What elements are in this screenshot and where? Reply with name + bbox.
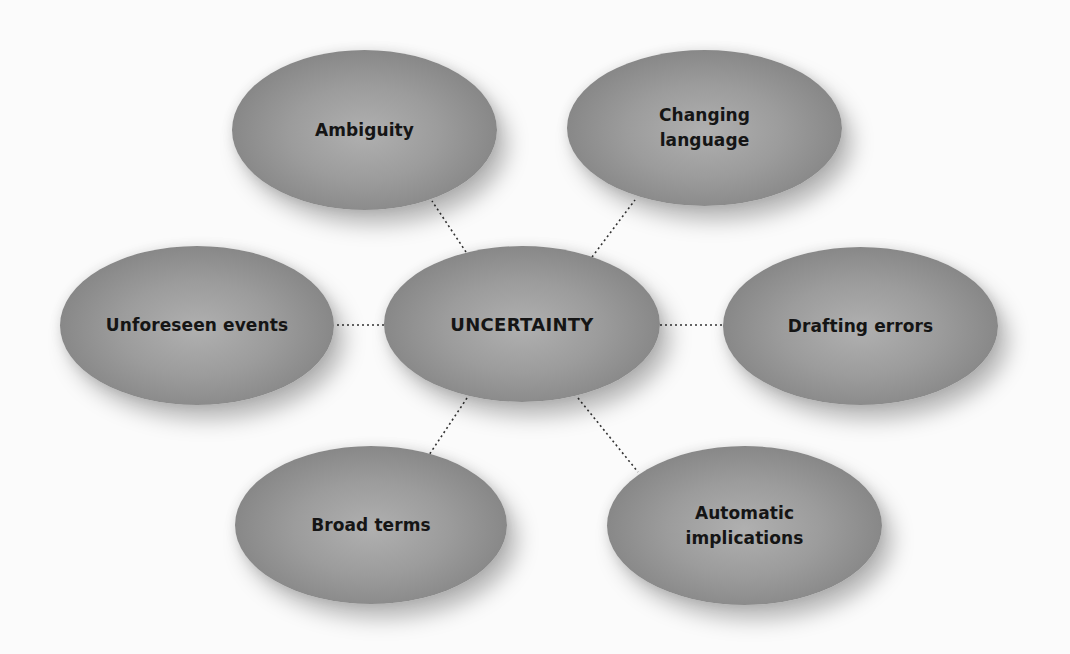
node-label-changing-language: Changing language xyxy=(659,103,750,153)
uncertainty-diagram: Ambiguity Changing language Unforeseen e… xyxy=(0,0,1070,654)
node-label-unforeseen-events: Unforeseen events xyxy=(106,313,288,338)
node-label-broad-terms: Broad terms xyxy=(311,513,431,538)
node-label-uncertainty: UNCERTAINTY xyxy=(450,312,593,337)
connector-automatic-implications xyxy=(578,398,638,472)
node-ambiguity: Ambiguity xyxy=(232,50,497,210)
node-label-automatic-implications: Automatic implications xyxy=(686,501,804,551)
node-drafting-errors: Drafting errors xyxy=(723,247,998,405)
node-automatic-implications: Automatic implications xyxy=(607,446,882,605)
connector-ambiguity xyxy=(432,201,466,252)
node-changing-language: Changing language xyxy=(567,50,842,206)
node-broad-terms: Broad terms xyxy=(235,446,507,604)
node-unforeseen-events: Unforeseen events xyxy=(60,246,334,405)
node-label-ambiguity: Ambiguity xyxy=(315,118,414,143)
node-uncertainty-center: UNCERTAINTY xyxy=(384,246,660,402)
node-label-drafting-errors: Drafting errors xyxy=(788,314,934,339)
connector-changing-language xyxy=(592,200,635,257)
connector-broad-terms xyxy=(429,398,467,455)
